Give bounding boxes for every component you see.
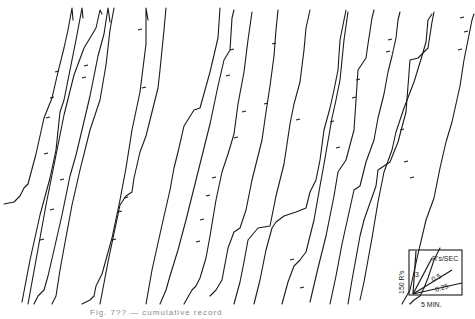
y-scale-label: 150 R's [398,270,405,294]
trace-10 [184,12,252,304]
x-scale-label: 5 MIN. [421,301,442,308]
trace-3 [28,10,102,304]
trace-9 [160,10,234,304]
trace-15 [310,10,374,302]
trace-11 [210,10,278,296]
trace-5 [52,8,114,304]
trace-12 [234,10,310,304]
rate-label-0.25: 0.25 [434,282,449,293]
trace-8 [146,8,220,304]
record-traces [4,8,474,304]
trace-4 [34,8,110,304]
trace-17 [348,12,434,304]
trace-1 [4,8,73,204]
cumulative-record-figure: R's/SEC 3 0.5 0.25 150 R's 5 MIN. [0,0,475,319]
reinforcement-pips [40,17,468,288]
rate-label-3: 3 [415,271,419,278]
rate-label-0.5: 0.5 [430,272,442,283]
trace-18 [360,14,432,300]
rate-legend: R's/SEC 3 0.5 0.25 150 R's 5 MIN. [398,250,462,308]
trace-7 [100,8,166,304]
trace-6 [82,8,148,304]
rate-unit-label: R's/SEC [432,255,458,262]
trace-14 [282,12,348,304]
figure-caption: Fig. 7?? — cumulative record [90,308,223,317]
